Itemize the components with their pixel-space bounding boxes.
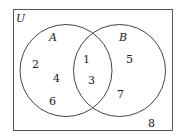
element-2: 2 <box>32 59 39 70</box>
element-6: 6 <box>49 96 56 107</box>
element-8: 8 <box>148 118 155 129</box>
set-b-label: B <box>119 32 127 43</box>
set-a-label: A <box>49 32 57 43</box>
element-4: 4 <box>53 73 60 84</box>
element-3: 3 <box>88 75 95 86</box>
element-5: 5 <box>126 54 133 65</box>
element-1: 1 <box>83 54 90 65</box>
element-7: 7 <box>117 89 124 100</box>
universe-label: U <box>16 13 25 24</box>
